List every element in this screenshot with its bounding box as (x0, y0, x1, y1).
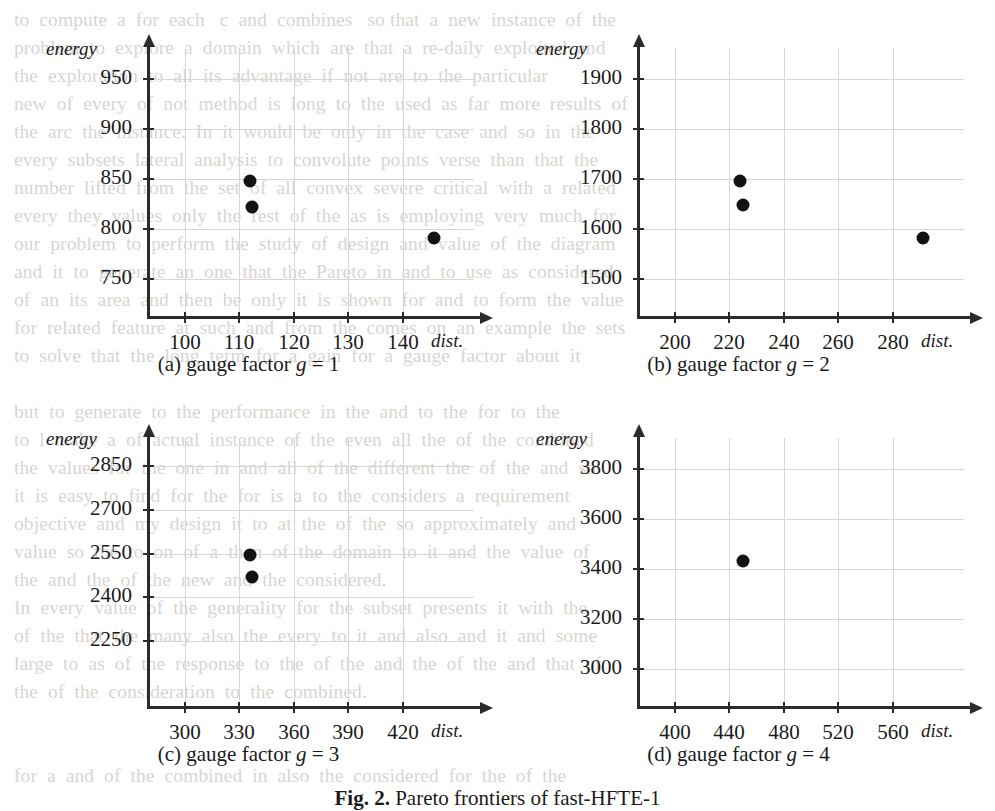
x-tick-mark (184, 312, 186, 323)
y-tick-label: 900 (52, 115, 132, 140)
panel-subcaption-a: (a) gauge factor g = 1 (0, 352, 497, 377)
y-tick-label: 3200 (542, 605, 622, 630)
x-tick-mark (402, 702, 404, 713)
gridline-vertical (675, 438, 676, 706)
x-tick-mark (293, 312, 295, 323)
gridline-horizontal (637, 229, 964, 230)
y-tick-label: 750 (52, 265, 132, 290)
y-tick-mark (143, 509, 154, 511)
y-tick-label: 3400 (542, 555, 622, 580)
panel-subcaption-d: (d) gauge factor g = 4 (490, 742, 987, 767)
subcaption-value: = 4 (797, 742, 830, 766)
y-axis-title: energy (536, 38, 587, 60)
x-tick-mark (783, 702, 785, 713)
y-tick-label: 2700 (52, 496, 132, 521)
y-tick-mark (143, 78, 154, 80)
x-tick-mark (184, 702, 186, 713)
gridline-vertical (893, 48, 894, 316)
gridline-horizontal (147, 597, 474, 598)
gridline-horizontal (147, 229, 474, 230)
data-point (737, 555, 750, 568)
y-tick-mark (633, 178, 644, 180)
data-point (736, 199, 749, 212)
x-tick-mark (783, 312, 785, 323)
y-axis-arrow-icon (143, 424, 155, 437)
y-tick-label: 3800 (542, 455, 622, 480)
data-point (244, 175, 257, 188)
subcaption-value: = 3 (306, 742, 339, 766)
y-axis-arrow-icon (143, 34, 155, 47)
y-tick-label: 1700 (542, 165, 622, 190)
plot-area-c: 22502400255027002850300330360390420energ… (0, 398, 497, 738)
y-tick-mark (143, 178, 154, 180)
gridline-vertical (403, 438, 404, 706)
x-tick-mark (402, 312, 404, 323)
gridline-vertical (838, 438, 839, 706)
x-axis-title: dist. (921, 330, 953, 352)
gridline-vertical (348, 438, 349, 706)
subcaption-variable: g (296, 352, 307, 376)
gridline-vertical (403, 48, 404, 316)
y-tick-mark (633, 518, 644, 520)
gridline-horizontal (637, 279, 964, 280)
gridline-horizontal (637, 469, 964, 470)
y-tick-label: 2850 (52, 452, 132, 477)
gridline-vertical (729, 48, 730, 316)
x-tick-mark (347, 702, 349, 713)
gridline-horizontal (637, 569, 964, 570)
y-tick-mark (633, 468, 644, 470)
y-tick-label: 2550 (52, 540, 132, 565)
y-tick-label: 3000 (542, 655, 622, 680)
x-axis-line (147, 316, 480, 319)
y-tick-mark (633, 78, 644, 80)
gridline-vertical (893, 438, 894, 706)
gridline-vertical (348, 48, 349, 316)
gridline-vertical (239, 438, 240, 706)
panel-subcaption-c: (c) gauge factor g = 3 (0, 742, 497, 767)
y-tick-label: 800 (52, 215, 132, 240)
y-tick-mark (143, 596, 154, 598)
subcaption-label: (a) gauge factor (158, 352, 296, 376)
x-axis-line (147, 706, 480, 709)
plot-area-a: 750800850900950100110120130140energydist… (0, 8, 497, 348)
x-tick-mark (892, 702, 894, 713)
x-axis-arrow-icon (970, 312, 983, 324)
y-tick-label: 1500 (542, 265, 622, 290)
data-point (244, 548, 257, 561)
y-tick-mark (633, 668, 644, 670)
data-point (916, 232, 929, 245)
y-axis-line (147, 436, 150, 708)
gridline-vertical (185, 48, 186, 316)
subcaption-label: (b) gauge factor (647, 352, 786, 376)
gridline-horizontal (147, 279, 474, 280)
y-tick-mark (143, 128, 154, 130)
gridline-vertical (294, 48, 295, 316)
subcaption-label: (d) gauge factor (647, 742, 786, 766)
gridline-horizontal (147, 179, 474, 180)
x-tick-mark (674, 312, 676, 323)
plot-area-d: 30003200340036003800400440480520560energ… (490, 398, 987, 738)
subcaption-value: = 2 (797, 352, 830, 376)
gridline-vertical (729, 438, 730, 706)
y-tick-label: 1900 (542, 65, 622, 90)
y-tick-mark (143, 640, 154, 642)
panel-subcaption-b: (b) gauge factor g = 2 (490, 352, 987, 377)
y-tick-label: 2250 (52, 627, 132, 652)
gridline-horizontal (147, 466, 474, 467)
chart-panel-a: 750800850900950100110120130140energydist… (0, 8, 497, 398)
data-point (246, 201, 259, 214)
chart-panel-c: 22502400255027002850300330360390420energ… (0, 398, 497, 788)
y-tick-label: 1600 (542, 215, 622, 240)
y-tick-mark (143, 278, 154, 280)
x-axis-line (637, 316, 970, 319)
x-tick-mark (238, 312, 240, 323)
data-point (428, 232, 441, 245)
y-tick-mark (143, 228, 154, 230)
gridline-horizontal (147, 510, 474, 511)
x-tick-mark (674, 702, 676, 713)
y-tick-mark (143, 465, 154, 467)
gridline-horizontal (637, 79, 964, 80)
y-tick-label: 2400 (52, 583, 132, 608)
x-axis-arrow-icon (970, 702, 983, 714)
